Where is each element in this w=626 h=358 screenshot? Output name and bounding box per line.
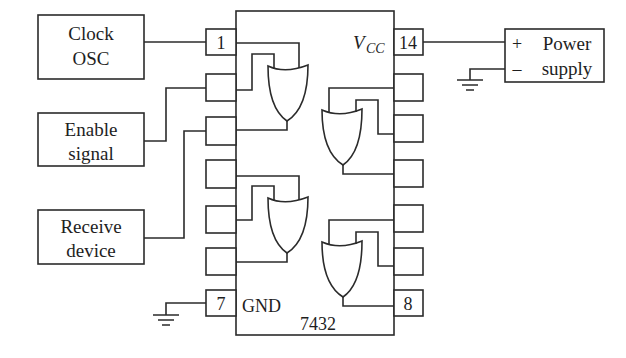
pin-6	[206, 248, 236, 275]
power-plus-terminal: +	[512, 34, 522, 54]
wire-receive-to-pin3	[144, 131, 206, 238]
power-supply-block: + – Power supply	[505, 29, 604, 82]
ground-icon	[153, 315, 179, 325]
gnd-label: GND	[242, 296, 281, 316]
clock-osc-block: Clock OSC	[38, 15, 144, 79]
clock-osc-label-1: Clock	[68, 23, 114, 44]
vcc-subscript: CC	[366, 41, 385, 56]
ic-7432-chip: 1 7 14 8 V CC GND 7432	[206, 11, 423, 335]
pin-5	[206, 206, 236, 233]
pin-9	[394, 248, 423, 275]
receive-device-label-1: Receive	[60, 216, 121, 237]
pin-13	[394, 74, 423, 101]
enable-signal-label-1: Enable	[65, 119, 118, 140]
ground-icon	[457, 80, 483, 90]
pin-4	[206, 160, 236, 188]
right-pins	[394, 29, 423, 316]
receive-device-block: Receive device	[38, 210, 144, 264]
pin-3	[206, 117, 236, 145]
pin-2	[206, 74, 236, 101]
pin-7-label: 7	[217, 294, 226, 314]
pin-11	[394, 160, 423, 187]
wire-power-minus-to-ground	[470, 69, 505, 80]
pin-10	[394, 205, 423, 232]
part-number-label: 7432	[300, 314, 336, 334]
enable-signal-label-2: signal	[68, 143, 113, 164]
pin-8-label: 8	[404, 294, 413, 314]
power-minus-terminal: –	[512, 59, 523, 79]
power-supply-label-1: Power	[543, 33, 592, 54]
enable-signal-block: Enable signal	[38, 113, 144, 166]
receive-device-label-2: device	[66, 240, 116, 261]
pin-12	[394, 115, 423, 142]
clock-osc-label-2: OSC	[73, 48, 110, 69]
circuit-diagram: Clock OSC Enable signal Receive device +…	[0, 0, 626, 358]
pin-1-label: 1	[217, 33, 226, 53]
wire-pin7-to-ground	[166, 303, 206, 315]
wire-enable-to-pin2	[144, 88, 206, 141]
left-pins	[206, 29, 236, 316]
pin-14-label: 14	[399, 33, 417, 53]
power-supply-label-2: supply	[542, 58, 593, 79]
